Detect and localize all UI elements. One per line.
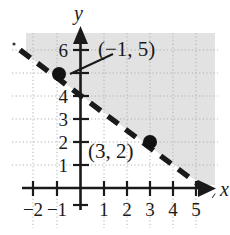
x-tick-label-2: 2	[122, 199, 132, 220]
point-label-a: (−1, 5)	[98, 37, 155, 61]
x-tick-label-neg2: −2	[23, 199, 43, 220]
x-axis-label: x	[219, 178, 229, 200]
point-marker-a	[52, 67, 66, 81]
point-label-b: (3, 2)	[88, 139, 134, 163]
point-marker-b	[143, 135, 157, 149]
x-tick-label-5: 5	[191, 199, 201, 220]
x-tick-label-neg1: −1	[47, 199, 67, 220]
x-tick-label-1: 1	[99, 199, 109, 220]
y-tick-label-6: 6	[59, 40, 69, 61]
y-tick-label-1: 1	[59, 155, 69, 176]
y-tick-label-3: 3	[59, 109, 69, 130]
x-tick-label-4: 4	[168, 199, 178, 220]
y-tick-label-4: 4	[59, 86, 69, 107]
graph-figure: y x −2 −1 1 2 3 4 5 6 4 3 2 1 (−1, 5) (3…	[0, 0, 230, 235]
x-tick-label-3: 3	[145, 199, 155, 220]
y-axis-label: y	[72, 2, 83, 25]
print-speck	[12, 42, 15, 45]
graph-canvas: y x −2 −1 1 2 3 4 5 6 4 3 2 1 (−1, 5) (3…	[0, 0, 230, 235]
y-tick-label-2: 2	[59, 132, 69, 153]
